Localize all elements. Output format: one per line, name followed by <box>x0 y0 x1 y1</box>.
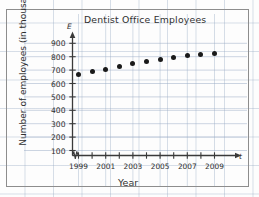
data-point <box>144 59 149 64</box>
data-point <box>185 53 190 58</box>
y-axis-arrow <box>70 32 76 39</box>
graph-paper-page: Dentist Office Employees E t Number of e… <box>0 0 259 197</box>
y-tick-label: 700 <box>42 66 66 75</box>
data-point <box>90 69 95 74</box>
y-tick-label: 900 <box>42 39 66 48</box>
y-tick-label: 800 <box>42 53 66 62</box>
x-tick-label: 2009 <box>202 162 228 171</box>
y-tick-label: 400 <box>42 106 66 115</box>
y-tick-label: 200 <box>42 133 66 142</box>
axis-ticks <box>69 43 214 158</box>
data-point <box>198 52 203 57</box>
data-point <box>76 72 81 77</box>
y-tick-label: 100 <box>42 147 66 156</box>
y-tick-label: 500 <box>42 93 66 102</box>
x-tick-label: 2005 <box>147 162 173 171</box>
y-tick-label: 600 <box>42 80 66 89</box>
x-axis-arrow <box>235 153 242 159</box>
y-tick-label: 300 <box>42 120 66 129</box>
data-point <box>158 57 163 62</box>
x-tick-label: 2007 <box>174 162 200 171</box>
x-tick-label: 2001 <box>93 162 119 171</box>
x-tick-label: 1999 <box>66 162 92 171</box>
x-tick-label: 2003 <box>120 162 146 171</box>
